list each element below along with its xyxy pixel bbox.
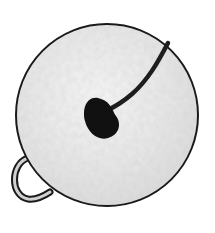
jingle-bell-illustration: jingle bell	[0, 0, 215, 233]
bell-drawing	[0, 0, 215, 233]
